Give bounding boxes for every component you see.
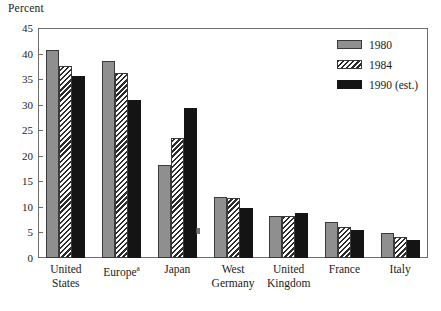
- bar-1980: [269, 216, 282, 258]
- legend-item-1984: 1984: [337, 56, 433, 73]
- bar-1980: [325, 222, 338, 258]
- bar-1980: [102, 61, 115, 258]
- legend-swatch: [337, 80, 362, 89]
- x-axis-label-line: Italy: [358, 262, 441, 276]
- bar-group: [158, 28, 197, 258]
- legend-swatch: [337, 60, 362, 69]
- y-tick-label: 30: [0, 99, 33, 110]
- legend-item-1980: 1980: [337, 36, 433, 53]
- y-axis-unit-label: Percent: [8, 2, 44, 14]
- bar-1984: [338, 227, 351, 258]
- y-tick-label: 15: [0, 176, 33, 187]
- scan-artifact: [196, 228, 200, 234]
- bar-1990-est-: [240, 208, 253, 258]
- bar-1984: [282, 216, 295, 258]
- legend-label: 1990 (est.): [369, 79, 418, 91]
- bar-1980: [46, 50, 59, 258]
- legend-label: 1980: [369, 39, 392, 51]
- bar-1990-est-: [351, 230, 364, 258]
- bar-1984: [171, 138, 184, 258]
- bar-1980: [158, 165, 171, 258]
- x-axis-label-italy: Italy: [358, 262, 441, 276]
- legend-swatch: [337, 40, 362, 49]
- bar-1990-est-: [72, 76, 85, 258]
- bar-1990-est-: [295, 213, 308, 258]
- bar-1980: [214, 197, 227, 258]
- bar-group: [102, 28, 141, 258]
- bar-1990-est-: [407, 240, 420, 258]
- y-tick-label: 5: [0, 227, 33, 238]
- chart-legend: 198019841990 (est.): [337, 36, 433, 96]
- bar-1980: [381, 233, 394, 258]
- bar-1990-est-: [184, 108, 197, 258]
- x-axis-labels: UnitedStatesEuropeaJapanWestGermanyUnite…: [38, 262, 428, 308]
- y-tick-label: 20: [0, 150, 33, 161]
- bar-group: [214, 28, 253, 258]
- bar-1984: [115, 73, 128, 258]
- bar-group: [46, 28, 85, 258]
- bar-1984: [227, 198, 240, 258]
- bar-chart: Percent 454035302520151050 UnitedStatesE…: [0, 0, 441, 311]
- bar-1984: [59, 66, 72, 258]
- legend-label: 1984: [369, 59, 392, 71]
- bar-group: [269, 28, 308, 258]
- y-tick-label: 10: [0, 201, 33, 212]
- legend-item-1990-est-: 1990 (est.): [337, 76, 433, 93]
- y-tick-label: 35: [0, 74, 33, 85]
- y-tick-label: 40: [0, 48, 33, 59]
- y-tick-label: 45: [0, 23, 33, 34]
- y-tick-label: 25: [0, 125, 33, 136]
- bar-1990-est-: [128, 100, 141, 258]
- bar-1984: [394, 237, 407, 258]
- x-axis-label-line: Kingdom: [247, 276, 331, 290]
